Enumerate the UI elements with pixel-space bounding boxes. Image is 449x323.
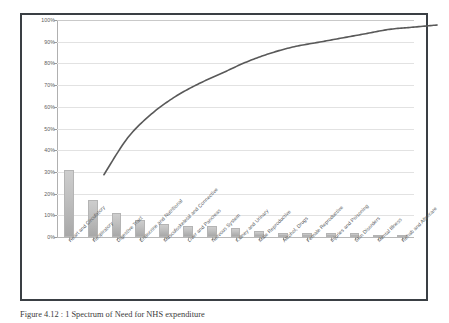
bar bbox=[64, 170, 74, 237]
y-axis-tick-label: 90% bbox=[25, 39, 55, 45]
cumulative-line bbox=[104, 25, 437, 175]
plot-area bbox=[57, 20, 414, 237]
y-axis-tick-label: 50% bbox=[25, 126, 55, 132]
pareto-chart-figure: 0%10%20%30%40%50%60%70%80%90%100% Heart … bbox=[0, 0, 449, 323]
figure-caption: Figure 4.12 : 1 Spectrum of Need for NHS… bbox=[20, 310, 440, 323]
y-axis: 0%10%20%30%40%50%60%70%80%90%100% bbox=[22, 20, 55, 237]
gridline bbox=[57, 85, 414, 86]
y-axis-tick-label: 0% bbox=[25, 234, 55, 240]
y-axis-tick-label: 70% bbox=[25, 82, 55, 88]
cumulative-line-series bbox=[92, 25, 449, 242]
y-axis-tick-label: 80% bbox=[25, 60, 55, 66]
y-axis-tick-label: 60% bbox=[25, 104, 55, 110]
gridline bbox=[57, 129, 414, 130]
y-axis-tick-label: 20% bbox=[25, 191, 55, 197]
gridline bbox=[57, 107, 414, 108]
x-axis-labels: Heart and CirculatoryRespiratoryDigestiv… bbox=[57, 239, 414, 297]
gridline bbox=[57, 20, 414, 21]
chart-frame: 0%10%20%30%40%50%60%70%80%90%100% Heart … bbox=[20, 13, 428, 301]
chart-plot-container: 0%10%20%30%40%50%60%70%80%90%100% Heart … bbox=[22, 15, 426, 299]
y-axis-tick-label: 100% bbox=[25, 17, 55, 23]
gridline bbox=[57, 172, 414, 173]
y-axis-tick-label: 10% bbox=[25, 212, 55, 218]
gridline bbox=[57, 42, 414, 43]
gridline bbox=[57, 63, 414, 64]
y-axis-tick-label: 30% bbox=[25, 169, 55, 175]
gridline bbox=[57, 194, 414, 195]
gridline bbox=[57, 150, 414, 151]
y-axis-tick-label: 40% bbox=[25, 147, 55, 153]
